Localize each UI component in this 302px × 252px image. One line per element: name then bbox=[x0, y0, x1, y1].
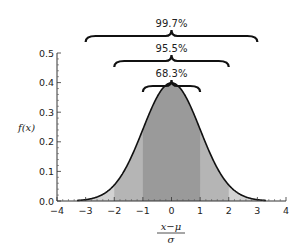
x-axis-label: x−μ σ bbox=[157, 221, 185, 245]
y-tick-label: 0.5 bbox=[39, 48, 54, 59]
percentage-braces: 68.3%95.5%99.7% bbox=[86, 18, 258, 92]
percentage-label: 95.5% bbox=[156, 43, 188, 54]
y-axis-label: f(x) bbox=[17, 122, 35, 133]
x-tick-label: 0 bbox=[168, 205, 174, 216]
x-tick-label: −4 bbox=[50, 205, 64, 216]
y-tick-label: 0.3 bbox=[39, 107, 54, 118]
brace bbox=[114, 55, 229, 67]
x-tick-label: 2 bbox=[226, 205, 232, 216]
y-tick-label: 0.0 bbox=[39, 196, 54, 207]
y-tick-label: 0.4 bbox=[39, 77, 54, 88]
x-axis-label-numerator: x−μ bbox=[161, 221, 182, 232]
y-tick-label: 0.1 bbox=[39, 166, 54, 177]
x-tick-label: −1 bbox=[136, 205, 150, 216]
percentage-label: 99.7% bbox=[156, 18, 188, 29]
percentage-label: 68.3% bbox=[156, 68, 188, 79]
normal-distribution-chart: −4−3−2−1012340.00.10.20.30.40.5 68.3%95.… bbox=[0, 0, 302, 252]
x-axis-label-denominator: σ bbox=[168, 234, 176, 245]
x-tick-label: 1 bbox=[197, 205, 203, 216]
y-tick-label: 0.2 bbox=[39, 136, 54, 147]
x-tick-label: −2 bbox=[107, 205, 121, 216]
x-tick-label: 4 bbox=[283, 205, 289, 216]
shaded-region bbox=[143, 83, 200, 201]
x-tick-label: 3 bbox=[254, 205, 260, 216]
x-tick-label: −3 bbox=[79, 205, 93, 216]
brace bbox=[86, 30, 258, 42]
shaded-bands bbox=[86, 83, 258, 201]
